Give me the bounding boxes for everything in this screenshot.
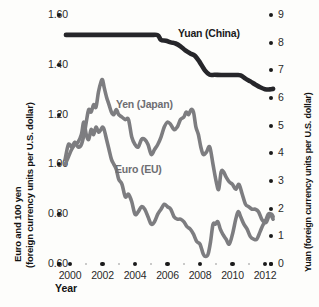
plot-area xyxy=(0,0,319,307)
series-svg xyxy=(0,0,319,307)
series-label-yuan: Yuan (China) xyxy=(178,27,240,39)
currency-exchange-rate-chart: Euro and 100 yen (foreign currency units… xyxy=(0,0,319,307)
series-label-euro: Euro (EU) xyxy=(115,163,162,175)
series-line-yuan xyxy=(66,35,273,90)
series-label-yen: Yen (Japan) xyxy=(116,98,173,110)
